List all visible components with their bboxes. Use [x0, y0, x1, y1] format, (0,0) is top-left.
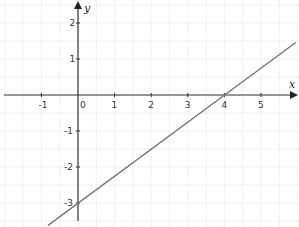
x-tick-label: 0 — [80, 100, 86, 110]
x-tick-label: -1 — [38, 100, 47, 110]
x-tick-label: 2 — [148, 100, 154, 110]
x-tick-label: 5 — [258, 100, 264, 110]
x-tick-label: 3 — [185, 100, 191, 110]
x-tick-label: 4 — [221, 100, 227, 110]
grid-lines — [0, 0, 299, 227]
x-axis-arrow-icon — [290, 91, 298, 99]
y-tick-label: -2 — [64, 162, 73, 172]
y-tick-label: -3 — [64, 198, 73, 208]
y-tick-label: -1 — [64, 126, 73, 136]
y-tick-label: 2 — [70, 18, 76, 28]
coordinate-plane: -1012345-3-2-112 x y — [0, 0, 299, 227]
y-axis-label: y — [83, 2, 91, 15]
x-tick-label: 1 — [112, 100, 118, 110]
x-axis-label: x — [289, 78, 296, 91]
y-tick-label: 1 — [70, 54, 76, 64]
data-line — [48, 42, 296, 225]
